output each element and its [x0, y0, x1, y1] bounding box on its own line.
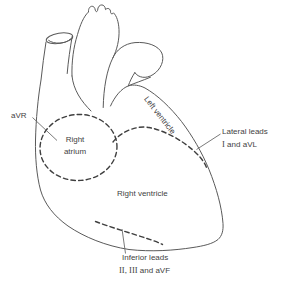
right-atrium-label: Rightatrium [51, 134, 99, 158]
lateral-wall-dashed-boundary [113, 127, 207, 167]
lateral-leads-label-line1: Lateral leads [222, 126, 268, 138]
inferior-leads-pointer-line [122, 229, 126, 254]
right-atrium-label-line2: atrium [51, 146, 99, 158]
inferior-leads-label-line2: II, III and aVF [119, 264, 170, 277]
aorta-outline [72, 5, 119, 111]
inferior-leads-label-line1: Inferior leads [122, 252, 170, 264]
inferior-leads-numerals: II, III [119, 265, 138, 275]
lateral-leads-pointer-line [197, 134, 221, 150]
inferior-wall-dashed-boundary [96, 222, 163, 245]
pulmonary-artery-outline [113, 42, 163, 85]
svc-opening-inner-rim [49, 39, 71, 43]
lateral-leads-label: Lateral leadsI and aVL [222, 126, 268, 151]
svc-right-edge [67, 36, 72, 73]
lateral-leads-rest: and aVL [227, 140, 257, 149]
inferior-leads-label: Inferior leadsII, III and aVF [122, 252, 170, 277]
lateral-leads-label-line2: I and aVL [222, 138, 268, 151]
right-ventricle-label: Right ventricle [117, 188, 168, 200]
lateral-leads-numeral: I [222, 139, 225, 149]
avr-label: aVR [11, 110, 27, 122]
heart-ecg-lead-diagram: aVR Rightatrium Left ventricle Lateral l… [0, 0, 297, 287]
right-atrium-label-line1: Right [51, 134, 99, 146]
inferior-leads-rest: and aVF [140, 266, 170, 275]
